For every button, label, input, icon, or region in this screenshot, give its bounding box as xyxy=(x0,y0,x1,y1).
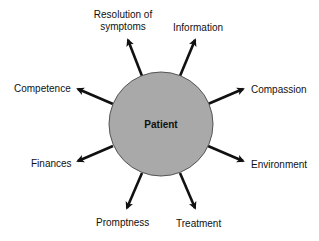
label-resolution-of-symptoms-line2: symptoms xyxy=(100,21,146,32)
patient-needs-diagram: Patient Resolution of symptoms Informati… xyxy=(0,0,319,241)
label-compassion: Compassion xyxy=(251,84,307,95)
label-finances: Finances xyxy=(31,158,72,169)
arrow-resolution-of-symptoms xyxy=(128,40,142,76)
label-environment: Environment xyxy=(251,159,307,170)
label-resolution-of-symptoms-line1: Resolution of xyxy=(94,9,153,20)
arrow-compassion xyxy=(208,89,243,104)
label-competence: Competence xyxy=(14,83,71,94)
arrow-environment xyxy=(208,146,243,161)
arrow-finances xyxy=(78,146,113,161)
patient-label: Patient xyxy=(144,119,178,130)
arrow-promptness xyxy=(127,173,142,208)
label-treatment: Treatment xyxy=(176,218,221,229)
label-information: Information xyxy=(173,22,223,33)
arrow-treatment xyxy=(180,173,195,208)
arrow-competence xyxy=(78,89,113,104)
arrow-information xyxy=(180,40,195,76)
label-promptness: Promptness xyxy=(96,217,149,228)
